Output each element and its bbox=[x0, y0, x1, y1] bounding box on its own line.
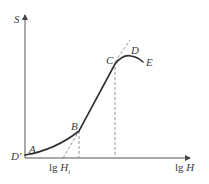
point-label-d: D bbox=[131, 45, 139, 56]
point-label-c: C bbox=[106, 55, 113, 66]
adsorption-curve-diagram bbox=[0, 0, 209, 184]
isotherm-curve bbox=[25, 56, 143, 155]
point-label-b: B bbox=[71, 121, 78, 132]
tick-label-sub: i bbox=[68, 168, 70, 176]
x-tick-label-lg-hi: lg Hi bbox=[49, 162, 70, 176]
x-axis-label-prefix: lg bbox=[175, 161, 184, 173]
point-label-e: E bbox=[146, 57, 153, 68]
x-axis-label-var: H bbox=[186, 161, 194, 173]
point-label-d-prime: D' bbox=[11, 151, 21, 162]
tick-label-prefix: lg bbox=[49, 161, 58, 173]
tangent-dashed-line-C bbox=[115, 40, 130, 62]
x-axis-label: lg H bbox=[175, 162, 194, 173]
tangent-dashed-line-B bbox=[63, 131, 79, 158]
y-axis-label: S bbox=[14, 14, 20, 25]
point-label-a: A bbox=[29, 144, 36, 155]
